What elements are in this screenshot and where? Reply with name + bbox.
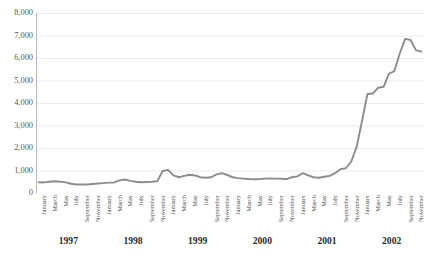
x-axis-month-label: September — [408, 195, 414, 222]
x-axis-month-label: July — [73, 195, 79, 206]
y-axis-tick-label: 2,000 — [3, 144, 33, 152]
y-axis-tick-label: 1,000 — [3, 167, 33, 175]
x-axis-year-label: 1999 — [188, 236, 207, 246]
chart-container: 8,0007,0006,0005,0004,0003,0002,0001,000… — [0, 0, 427, 260]
x-axis-month-label: July — [397, 195, 403, 206]
x-axis-month-label: March — [52, 195, 58, 212]
x-axis-year-label: 1997 — [59, 236, 78, 246]
x-axis-month-label: November — [95, 195, 101, 222]
x-axis-year-label: 1998 — [123, 236, 142, 246]
x-axis-month-label: March — [181, 195, 187, 212]
x-axis-month-label: July — [332, 195, 338, 206]
x-axis-month-label: May — [257, 195, 263, 207]
x-axis-month-label: September — [343, 195, 349, 222]
x-axis-month-label: January — [300, 195, 306, 215]
x-axis-month-label: January — [106, 195, 112, 215]
x-axis-month-label: March — [375, 195, 381, 212]
y-axis-tick-label: 3,000 — [3, 122, 33, 130]
y-axis-tick-label: 0 — [3, 189, 33, 197]
y-axis-tick-label: 4,000 — [3, 99, 33, 107]
y-axis-tick-label: 5,000 — [3, 77, 33, 85]
x-axis-year-label: 2002 — [382, 236, 401, 246]
x-axis-year-label: 2000 — [253, 236, 272, 246]
x-axis-month-label: September — [278, 195, 284, 222]
y-axis-tick-label: 6,000 — [3, 54, 33, 62]
x-axis-month-label: March — [117, 195, 123, 212]
x-axis-year-label: 2001 — [317, 236, 336, 246]
x-axis-month-label: July — [267, 195, 273, 206]
x-axis-month-label: January — [364, 195, 370, 215]
data-series-line — [39, 39, 422, 185]
x-axis-month-label: September — [149, 195, 155, 222]
x-axis-year-labels: 199719981999200020012002 — [36, 236, 424, 254]
x-axis-month-label: November — [224, 195, 230, 222]
x-axis-month-label: May — [192, 195, 198, 207]
x-axis-month-label: January — [170, 195, 176, 215]
x-axis-month-label: May — [63, 195, 69, 207]
x-axis-month-label: November — [289, 195, 295, 222]
x-axis-month-label: May — [321, 195, 327, 207]
x-axis-month-label: January — [235, 195, 241, 215]
x-axis-month-label: July — [138, 195, 144, 206]
x-axis-month-labels: JanuaryMarchMayJulySeptemberNovemberJanu… — [36, 195, 424, 235]
x-axis-month-label: March — [311, 195, 317, 212]
x-axis-month-label: November — [418, 195, 424, 222]
x-axis-month-label: November — [160, 195, 166, 222]
x-axis-month-label: May — [386, 195, 392, 207]
x-axis-month-label: November — [354, 195, 360, 222]
x-axis-month-label: September — [84, 195, 90, 222]
plot-area — [36, 13, 424, 193]
clipped-title-text — [36, 0, 424, 3]
y-axis: 8,0007,0006,0005,0004,0003,0002,0001,000… — [0, 0, 33, 260]
y-axis-tick-label: 8,000 — [3, 9, 33, 17]
x-axis-month-label: September — [214, 195, 220, 222]
x-axis-month-label: July — [203, 195, 209, 206]
x-axis-month-label: January — [41, 195, 47, 215]
x-axis-month-label: May — [127, 195, 133, 207]
x-axis-month-label: March — [246, 195, 252, 212]
y-axis-tick-label: 7,000 — [3, 32, 33, 40]
chart-svg — [36, 13, 424, 193]
